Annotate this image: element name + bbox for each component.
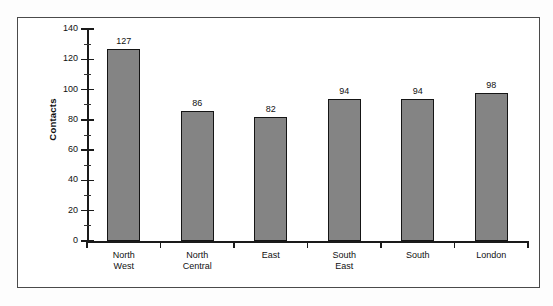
x-axis-category-label-line: London: [451, 250, 531, 261]
x-axis-category-label-line: South: [304, 250, 384, 261]
y-axis-tick: [81, 59, 94, 61]
x-axis-category-label: NorthCentral: [157, 250, 237, 272]
bar-value-label: 82: [241, 104, 301, 114]
x-axis-tick: [454, 241, 456, 248]
y-axis-tick-label: 120: [20, 54, 78, 63]
bar-value-label: 94: [314, 86, 374, 96]
x-axis-category-label: NorthWest: [84, 250, 164, 272]
bar: [475, 93, 508, 241]
y-axis-tick-label: 20: [20, 206, 78, 215]
y-axis-minor-tick: [84, 44, 91, 45]
x-axis-tick: [527, 241, 529, 248]
bar-value-label: 127: [94, 36, 154, 46]
y-axis-tick: [81, 180, 94, 182]
y-axis-tick: [81, 149, 94, 151]
x-axis-category-label: London: [451, 250, 531, 261]
x-axis-category-label-line: East: [231, 250, 311, 261]
y-axis-minor-tick: [84, 74, 91, 75]
y-axis-tick-label: 100: [20, 85, 78, 94]
y-axis-tick-label: 0: [20, 236, 78, 245]
y-axis-minor-tick: [84, 225, 91, 226]
y-axis-minor-tick: [84, 165, 91, 166]
figure-frame: Contacts 020406080100120140 127NorthWest…: [17, 17, 540, 288]
x-axis-category-label: SouthEast: [304, 250, 384, 272]
x-axis-category-label-line: South: [378, 250, 458, 261]
x-axis-category-label-line: North: [84, 250, 164, 261]
x-axis-tick: [86, 241, 88, 248]
bar: [401, 99, 434, 241]
x-axis-category-label-line: East: [304, 261, 384, 272]
y-axis-minor-tick: [84, 135, 91, 136]
x-axis-tick: [380, 241, 382, 248]
x-axis-tick: [233, 241, 235, 248]
y-axis-minor-tick: [84, 195, 91, 196]
bar-value-label: 98: [461, 80, 521, 90]
y-axis-tick: [81, 89, 94, 91]
x-axis-category-label-line: Central: [157, 261, 237, 272]
y-axis-tick: [81, 119, 94, 121]
bar-chart: Contacts 020406080100120140 127NorthWest…: [18, 18, 541, 289]
x-axis-category-label: East: [231, 250, 311, 261]
y-axis-tick-label: 140: [20, 24, 78, 33]
page-background: Contacts 020406080100120140 127NorthWest…: [0, 0, 553, 306]
y-axis-tick: [81, 28, 94, 30]
y-axis-tick-label: 80: [20, 115, 78, 124]
y-axis-minor-tick: [84, 104, 91, 105]
x-axis-tick: [160, 241, 162, 248]
bar: [181, 111, 214, 241]
bar: [254, 117, 287, 241]
x-axis-category-label: South: [378, 250, 458, 261]
y-axis-tick-label: 40: [20, 175, 78, 184]
bar: [328, 99, 361, 241]
x-axis-category-label-line: West: [84, 261, 164, 272]
y-axis-tick: [81, 210, 94, 212]
bar: [107, 49, 140, 241]
y-axis-tick-label: 60: [20, 145, 78, 154]
bar-value-label: 86: [167, 98, 227, 108]
x-axis-tick: [307, 241, 309, 248]
x-axis-category-label-line: North: [157, 250, 237, 261]
bar-value-label: 94: [388, 86, 448, 96]
